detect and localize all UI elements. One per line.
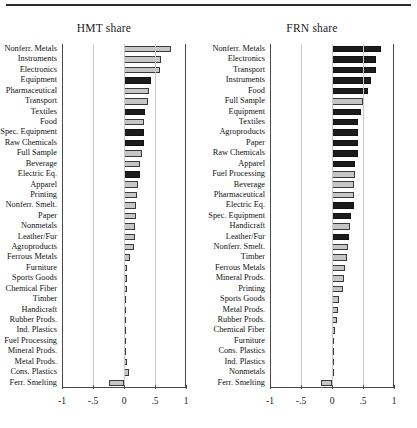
axis-tick-label: 1 xyxy=(184,396,189,406)
bar xyxy=(321,380,332,386)
category-label: Ferr. Smelting xyxy=(10,379,57,387)
category-label: Leather/Fur xyxy=(226,233,265,241)
bar xyxy=(124,202,136,208)
bar xyxy=(124,244,134,250)
bar xyxy=(332,46,381,52)
gridline xyxy=(363,44,364,388)
category-label: Furniture xyxy=(26,264,57,272)
panel-title-frn: FRN share xyxy=(208,22,416,34)
category-label: Ferrous Metals xyxy=(215,264,265,272)
category-label: Cons. Plastics xyxy=(218,347,265,355)
axis-tick xyxy=(363,385,364,389)
gridline xyxy=(155,44,156,388)
bar xyxy=(124,171,140,177)
category-label: Nonferr. Smelt. xyxy=(214,243,265,251)
gridline xyxy=(93,44,94,388)
bar xyxy=(124,46,171,52)
category-label: Timber xyxy=(33,295,57,303)
axis-tick xyxy=(186,385,187,389)
bar xyxy=(332,98,363,104)
category-labels-frn: Nonferr. MetalsElectronicsTransportInstr… xyxy=(208,44,268,388)
axis-tick-label: 0 xyxy=(122,396,127,406)
bar xyxy=(124,223,135,229)
bar xyxy=(124,98,148,104)
axis-tick-label: .5 xyxy=(151,396,158,406)
category-label: Nonmetals xyxy=(21,222,57,230)
axis-tick-label: -.5 xyxy=(88,396,98,406)
category-label: Timber xyxy=(241,253,265,261)
category-label: Rubber Prods. xyxy=(10,316,57,324)
gridline xyxy=(124,44,125,388)
category-label: Handicraft xyxy=(230,222,265,230)
category-label: Metal Prods. xyxy=(223,306,265,314)
bar xyxy=(332,129,358,135)
bar xyxy=(124,150,142,156)
category-label: Ind. Plastics xyxy=(224,358,265,366)
category-label: Mineral Prods. xyxy=(8,347,57,355)
axis-tick xyxy=(270,385,271,389)
bar xyxy=(332,77,371,83)
bar xyxy=(332,234,349,240)
category-label: Pharmaceutical xyxy=(6,87,57,95)
category-label: Sports Goods xyxy=(12,274,57,282)
bar xyxy=(332,150,358,156)
gridline xyxy=(301,44,302,388)
bar xyxy=(124,77,151,83)
panel-title-hmt: HMT share xyxy=(0,22,208,34)
category-label: Food xyxy=(248,87,265,95)
category-label: Paper xyxy=(246,139,265,147)
category-label: Electronics xyxy=(20,66,57,74)
axis-tick xyxy=(93,385,94,389)
category-label: Equipment xyxy=(229,108,265,116)
category-label: Raw Chemicals xyxy=(213,149,265,157)
category-label: Full Sample xyxy=(225,97,265,105)
axis-tick xyxy=(62,385,63,389)
axis-tick-label: -.5 xyxy=(296,396,306,406)
axis-tick-label: 1 xyxy=(392,396,397,406)
gridline xyxy=(332,44,333,388)
category-label: Instruments xyxy=(226,76,265,84)
category-label: Rubber Prods. xyxy=(218,316,265,324)
category-label: Transport xyxy=(25,97,57,105)
bar xyxy=(124,161,140,167)
bar xyxy=(332,119,358,125)
bar xyxy=(124,213,136,219)
category-label: Metal Prods. xyxy=(15,358,57,366)
category-label: Printing xyxy=(238,285,265,293)
figure-container: HMT share Nonferr. MetalsInstrumentsElec… xyxy=(0,0,417,428)
category-label: Sports Goods xyxy=(220,295,265,303)
bar xyxy=(124,119,144,125)
bar xyxy=(332,161,355,167)
category-label: Nonferr. Smelt. xyxy=(6,201,57,209)
bar xyxy=(124,181,138,187)
bar xyxy=(332,244,348,250)
panel-frn: FRN share Nonferr. MetalsElectronicsTran… xyxy=(208,0,416,428)
axis-tick xyxy=(394,385,395,389)
bar xyxy=(332,140,358,146)
bar xyxy=(332,67,376,73)
category-label: Agroproducts xyxy=(11,243,57,251)
category-label: Mineral Prods. xyxy=(216,274,265,282)
category-label: Fuel Processing xyxy=(4,337,57,345)
bar xyxy=(332,223,350,229)
category-label: Beverage xyxy=(26,160,57,168)
bar xyxy=(332,265,345,271)
axis-tick-label: 0 xyxy=(330,396,335,406)
category-label: Nonferr. Metals xyxy=(212,45,265,53)
category-label: Beverage xyxy=(234,181,265,189)
category-label: Nonmetals xyxy=(229,368,265,376)
bar xyxy=(124,109,145,115)
axis-tick-label: -1 xyxy=(266,396,274,406)
bar xyxy=(332,171,355,177)
bar xyxy=(332,181,354,187)
bar xyxy=(109,380,125,386)
category-label: Furniture xyxy=(234,337,265,345)
axis-tick xyxy=(332,385,333,389)
category-label: Pharmaceutical xyxy=(214,191,265,199)
category-label: Nonferr. Metals xyxy=(4,45,57,53)
category-label: Cons. Plastics xyxy=(10,368,57,376)
category-label: Leather/Fur xyxy=(18,233,57,241)
category-label: Full Sample xyxy=(17,149,57,157)
axis-tick xyxy=(124,385,125,389)
bar xyxy=(124,234,135,240)
